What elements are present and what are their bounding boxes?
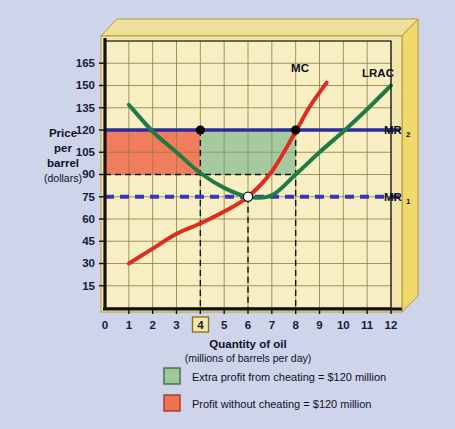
x-axis-subtitle: (millions of barrels per day) xyxy=(185,352,312,364)
y-tick-label: 45 xyxy=(82,235,95,247)
curve-label-mr2-subscript: 2 xyxy=(406,130,411,139)
x-tick-label-highlighted: 4 xyxy=(197,319,204,331)
y-axis-title-line2: per xyxy=(54,142,72,154)
x-tick-label: 10 xyxy=(337,319,350,331)
marker-cartel-price-at-q4 xyxy=(196,125,205,134)
x-tick-label: 9 xyxy=(316,319,322,331)
x-tick-label: 8 xyxy=(292,319,299,331)
curve-label-mr2-base: MR xyxy=(384,124,403,136)
marker-cheating-price-at-q8 xyxy=(291,125,300,134)
y-tick-label: 15 xyxy=(82,280,95,292)
x-tick-label: 3 xyxy=(173,319,179,331)
y-tick-label: 150 xyxy=(76,79,95,91)
economics-chart: 15 30 45 60 75 90 105 120 135 150 165 Pr… xyxy=(0,0,455,429)
frame-right-bevel xyxy=(402,19,418,312)
x-tick-label: 12 xyxy=(385,319,398,331)
y-axis-title-units: (dollars) xyxy=(44,172,82,184)
y-tick-label: 165 xyxy=(76,57,96,69)
curve-label-mr1-subscript: 1 xyxy=(406,197,411,206)
legend-swatch-profit-without-cheating xyxy=(164,395,180,411)
y-tick-label: 30 xyxy=(82,257,95,269)
x-tick-label: 1 xyxy=(126,319,133,331)
figure-root: 15 30 45 60 75 90 105 120 135 150 165 Pr… xyxy=(0,0,455,429)
y-tick-label: 75 xyxy=(82,191,95,203)
frame-top-bevel xyxy=(101,19,418,36)
x-tick-label: 2 xyxy=(149,319,155,331)
y-tick-label: 90 xyxy=(82,168,95,180)
x-tick-label: 11 xyxy=(361,319,374,331)
y-tick-label: 60 xyxy=(82,213,95,225)
y-axis-title-line1: Price xyxy=(49,127,77,139)
x-tick-label: 7 xyxy=(269,319,275,331)
x-tick-label: 6 xyxy=(245,319,251,331)
y-tick-label: 135 xyxy=(76,102,96,114)
curve-label-lrac: LRAC xyxy=(362,67,394,79)
legend-label-profit-without-cheating: Profit without cheating = $120 million xyxy=(192,398,371,410)
curve-label-mr1-base: MR xyxy=(384,191,403,203)
y-axis-title-line3: barrel xyxy=(47,157,79,169)
legend-swatch-extra-profit xyxy=(164,368,180,384)
legend-label-extra-profit: Extra profit from cheating = $120 millio… xyxy=(192,371,386,383)
x-tick-label: 5 xyxy=(221,319,228,331)
x-tick-label: 0 xyxy=(102,319,108,331)
x-axis-title: Quantity of oil xyxy=(209,338,286,350)
y-tick-label: 120 xyxy=(76,124,95,136)
marker-lrac-minimum xyxy=(243,192,252,201)
curve-label-mc: MC xyxy=(291,62,309,74)
